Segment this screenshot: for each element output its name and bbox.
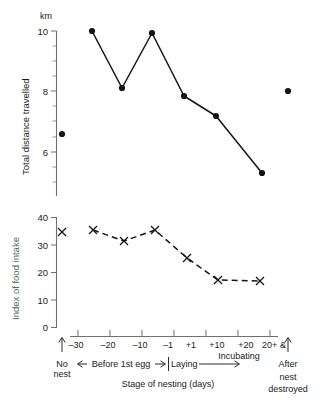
data-point xyxy=(149,30,155,36)
no-nest-label-line1: No xyxy=(56,359,68,369)
data-point xyxy=(120,237,128,245)
xtick-label-plus10: +10 xyxy=(209,340,224,350)
lower-ytick-40: 40 xyxy=(37,212,48,223)
upper-series-markers xyxy=(89,28,265,176)
data-point xyxy=(89,28,95,34)
data-point xyxy=(89,226,97,234)
data-point-after-destroyed xyxy=(285,88,291,94)
data-point-no-nest xyxy=(59,131,65,137)
incubating-label: Incubating xyxy=(218,351,260,361)
data-point xyxy=(181,93,187,99)
upper-y-axis-title: Total distance travelled xyxy=(20,78,31,175)
x-axis-ticks xyxy=(78,330,270,337)
before-first-egg-label: Before 1st egg xyxy=(92,359,151,369)
lower-ytick-10: 10 xyxy=(37,295,48,306)
xtick-label-minus30: –30 xyxy=(68,340,83,350)
lower-panel: 40 30 20 10 0 Index of food intake xyxy=(10,212,264,333)
xtick-label-20plus: 20+ & xyxy=(262,340,286,350)
chart-svg: km 10 8 6 Total distance travelled xyxy=(0,0,332,406)
lower-y-axis-title: Index of food intake xyxy=(10,237,21,320)
after-destroyed-label-line3: destroyed xyxy=(268,384,308,394)
xtick-label-plus20: +20 xyxy=(238,340,253,350)
data-point-no-nest xyxy=(58,228,66,236)
figure-container: km 10 8 6 Total distance travelled xyxy=(0,0,332,406)
data-point xyxy=(259,170,265,176)
upper-y-minor-ticks xyxy=(53,46,57,182)
laying-arrow-icon xyxy=(199,361,240,367)
upper-y-major-ticks xyxy=(51,31,57,152)
xtick-label-minus1: –1 xyxy=(163,340,173,350)
data-point xyxy=(213,113,219,119)
x-axis-title: Stage of nesting (days) xyxy=(122,379,215,389)
data-point xyxy=(151,226,159,234)
lower-ytick-20: 20 xyxy=(37,267,48,278)
laying-label: Laying xyxy=(171,359,198,369)
lower-y-major-ticks xyxy=(51,218,57,328)
upper-unit-label: km xyxy=(40,11,52,21)
upper-ytick-8: 8 xyxy=(43,86,48,97)
x-axis: –30 –20 –10 –1 +1 +10 +20 20+ & xyxy=(68,330,285,350)
lower-series-line xyxy=(93,230,260,281)
no-nest-arrow-icon xyxy=(59,338,65,353)
upper-panel: km 10 8 6 Total distance travelled xyxy=(20,11,291,196)
no-nest-label-line2: nest xyxy=(53,369,71,379)
xtick-label-minus20: –20 xyxy=(100,340,115,350)
data-point xyxy=(183,254,191,262)
data-point xyxy=(214,276,222,284)
lower-ytick-0: 0 xyxy=(43,322,48,333)
upper-ytick-6: 6 xyxy=(43,147,48,158)
data-point xyxy=(119,85,125,91)
xtick-label-plus1: +1 xyxy=(186,340,196,350)
after-destroyed-label-line1: After xyxy=(278,359,297,369)
lower-ytick-30: 30 xyxy=(37,240,48,251)
xtick-label-minus10: –10 xyxy=(132,340,147,350)
upper-series-line xyxy=(92,31,262,173)
after-destroyed-label-line2: nest xyxy=(279,372,297,382)
lower-series-markers xyxy=(89,226,264,285)
upper-ytick-10: 10 xyxy=(37,26,48,37)
